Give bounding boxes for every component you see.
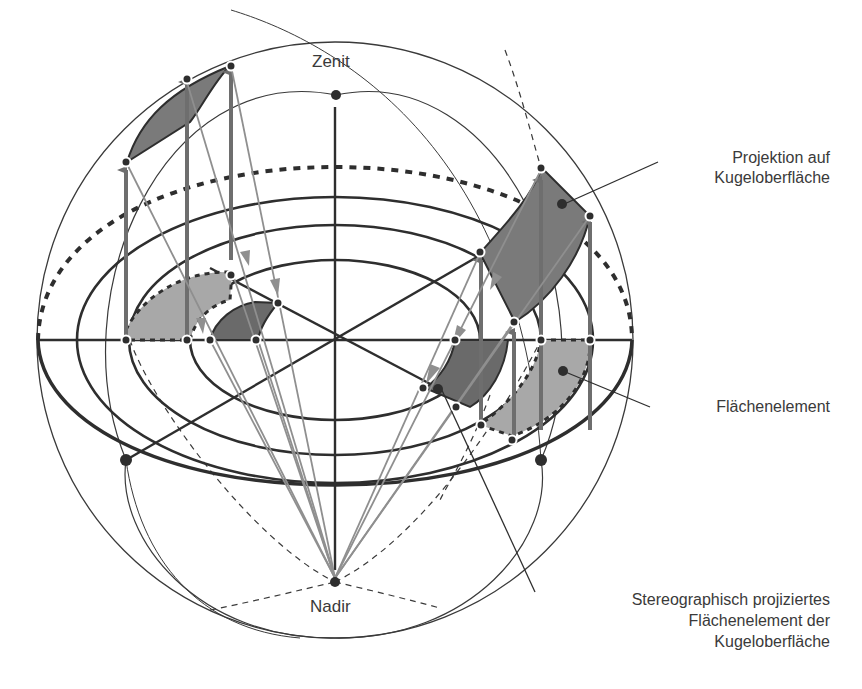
callout-projection: Projektion auf Kugeloberfläche — [640, 148, 830, 188]
stereographic-projection-diagram — [0, 0, 862, 689]
callout-projection-line1: Projektion auf — [640, 148, 830, 168]
sphere-patch-right — [480, 168, 590, 322]
callout-stereo-line3: Kugeloberfläche — [540, 631, 830, 652]
callout-area-element-line1: Flächenelement — [640, 397, 830, 417]
callout-projection-line2: Kugeloberfläche — [640, 168, 830, 188]
callout-stereo-line1: Stereographisch projiziertes — [540, 589, 830, 610]
sphere-patch-left — [127, 66, 230, 162]
zenith-dot — [331, 90, 341, 100]
callout-stereo-projected: Stereographisch projiziertes Flächenelem… — [540, 589, 830, 652]
zenith-label: Zenit — [312, 52, 350, 72]
callout-area-element: Flächenelement — [640, 397, 830, 417]
callout-stereo-line2: Flächenelement der — [540, 610, 830, 631]
nadir-dot — [330, 577, 340, 587]
nadir-label: Nadir — [310, 597, 351, 617]
